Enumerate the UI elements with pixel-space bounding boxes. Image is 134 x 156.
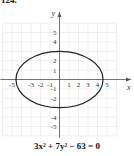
x-axis-label: x bbox=[126, 83, 131, 92]
y-tick-label: 5 bbox=[53, 29, 57, 37]
x-tick-label: 2 bbox=[77, 81, 81, 89]
y-tick-label: -5 bbox=[51, 123, 57, 131]
x-tick-label: -5 bbox=[9, 81, 15, 89]
x-tick-label: 1 bbox=[67, 81, 71, 89]
y-axis-arrow bbox=[58, 12, 62, 17]
y-axis-label: y bbox=[51, 9, 56, 18]
y-tick-label: -4 bbox=[51, 114, 57, 122]
y-tick-label: -2 bbox=[51, 95, 57, 103]
ellipse-plot: -5-3-2-1123455421-1-2-4-5 x y bbox=[0, 0, 134, 156]
y-tick-label: 2 bbox=[53, 57, 57, 65]
y-tick-label: 1 bbox=[53, 67, 57, 75]
x-tick-label: 3 bbox=[86, 81, 90, 89]
x-axis-arrow bbox=[126, 78, 131, 82]
y-tick-label: -1 bbox=[51, 85, 57, 93]
x-tick-label: 5 bbox=[105, 81, 109, 89]
x-tick-label: -3 bbox=[28, 81, 34, 89]
x-tick-label: 4 bbox=[96, 81, 100, 89]
x-tick-label: -2 bbox=[38, 81, 44, 89]
y-tick-label: 4 bbox=[53, 38, 57, 46]
equation-caption: 3x² + 7y² − 63 = 0 bbox=[0, 141, 134, 151]
axes bbox=[1, 12, 132, 138]
